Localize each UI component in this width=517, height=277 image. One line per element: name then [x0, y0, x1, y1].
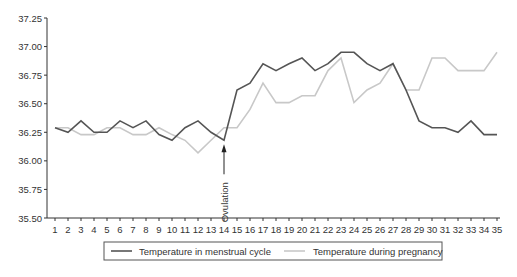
x-tick-label: 15 — [232, 224, 243, 235]
x-tick-label: 5 — [104, 224, 109, 235]
x-tick-label: 8 — [143, 224, 148, 235]
y-tick-label: 36.00 — [18, 155, 42, 166]
axes — [44, 18, 500, 221]
ovulation-annotation: Ovulation — [219, 144, 230, 222]
x-tick-label: 32 — [453, 224, 464, 235]
x-tick-label: 17 — [258, 224, 269, 235]
x-tick-label: 2 — [65, 224, 70, 235]
y-tick-label: 37.25 — [18, 13, 42, 24]
x-tick-label: 20 — [297, 224, 308, 235]
x-tick-label: 25 — [362, 224, 373, 235]
x-tick-label: 26 — [375, 224, 386, 235]
x-tick-label: 34 — [479, 224, 490, 235]
x-tick-label: 24 — [349, 224, 360, 235]
x-tick-label: 22 — [323, 224, 334, 235]
y-tick-label: 37.00 — [18, 41, 42, 52]
temperature-chart: 35.5035.7536.0036.2536.5036.7537.0037.25… — [0, 0, 517, 277]
x-axis-labels: 1234567891011121314151617181920212223242… — [52, 224, 502, 235]
y-tick-label: 35.75 — [18, 184, 42, 195]
x-tick-label: 7 — [130, 224, 135, 235]
x-tick-label: 14 — [219, 224, 230, 235]
legend-label-menstrual: Temperature in menstrual cycle — [139, 246, 271, 257]
x-tick-label: 19 — [284, 224, 295, 235]
x-tick-label: 12 — [193, 224, 204, 235]
x-tick-label: 28 — [401, 224, 412, 235]
x-tick-label: 18 — [271, 224, 282, 235]
y-tick-label: 36.25 — [18, 127, 42, 138]
y-tick-label: 36.75 — [18, 70, 42, 81]
x-tick-label: 4 — [91, 224, 96, 235]
ovulation-label: Ovulation — [219, 182, 230, 222]
x-tick-label: 9 — [156, 224, 161, 235]
x-tick-label: 31 — [440, 224, 451, 235]
x-tick-label: 29 — [414, 224, 425, 235]
y-tick-label: 35.50 — [18, 213, 42, 224]
series-line — [55, 52, 497, 140]
x-tick-label: 1 — [52, 224, 57, 235]
x-tick-label: 27 — [388, 224, 399, 235]
series-lines — [55, 52, 497, 153]
x-tick-label: 30 — [427, 224, 438, 235]
x-tick-label: 21 — [310, 224, 321, 235]
series-line — [55, 52, 497, 153]
x-tick-label: 23 — [336, 224, 347, 235]
x-tick-label: 16 — [245, 224, 256, 235]
x-tick-label: 11 — [180, 224, 190, 235]
x-tick-label: 10 — [167, 224, 178, 235]
legend: Temperature in menstrual cycleTemperatur… — [104, 242, 443, 260]
x-tick-label: 35 — [492, 224, 503, 235]
x-tick-label: 13 — [206, 224, 217, 235]
y-axis-labels: 35.5035.7536.0036.2536.5036.7537.0037.25 — [18, 13, 42, 224]
legend-label-pregnancy: Temperature during pregnancy — [313, 246, 443, 257]
arrow-up-icon — [222, 144, 227, 152]
y-tick-label: 36.50 — [18, 98, 42, 109]
x-tick-label: 33 — [466, 224, 477, 235]
x-tick-label: 6 — [117, 224, 122, 235]
x-tick-label: 3 — [78, 224, 83, 235]
